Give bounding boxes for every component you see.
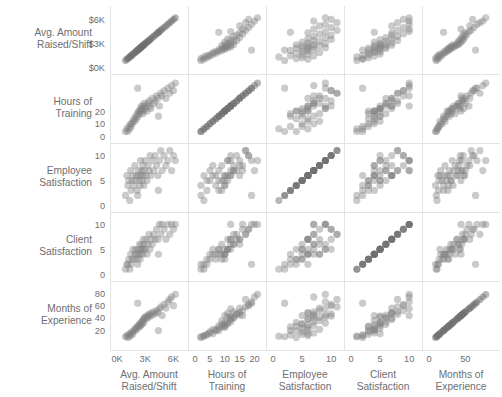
data-point	[155, 29, 162, 36]
data-point	[298, 251, 305, 258]
data-point	[293, 246, 300, 253]
splom-cell-experience-vs-client	[353, 291, 413, 341]
row-axis-label: Hours of	[53, 96, 92, 107]
data-point	[359, 300, 366, 307]
data-point	[168, 167, 175, 174]
data-point	[476, 147, 483, 154]
data-point	[440, 113, 447, 120]
data-point	[209, 162, 216, 169]
data-point	[155, 113, 162, 120]
data-point	[242, 296, 249, 303]
data-point	[333, 296, 340, 303]
data-point	[310, 167, 317, 174]
row-axis-label: Months of	[47, 303, 92, 314]
x-tick-label: 3K	[140, 354, 152, 364]
data-point	[164, 157, 171, 164]
data-point	[304, 172, 311, 179]
data-point	[310, 312, 317, 319]
data-point	[275, 333, 282, 340]
data-point	[134, 47, 141, 54]
data-point	[227, 221, 234, 228]
column-axis-label: Employee	[282, 369, 328, 380]
data-point	[281, 261, 288, 268]
data-point	[382, 157, 389, 164]
data-point	[215, 113, 222, 120]
x-tick-label: 50	[460, 354, 470, 364]
data-point	[239, 221, 246, 228]
data-point	[304, 105, 311, 112]
data-point	[388, 236, 395, 243]
data-point	[227, 28, 234, 35]
data-point	[293, 182, 300, 189]
data-point	[322, 241, 329, 248]
splom-cell-experience-vs-employee	[275, 291, 340, 341]
splom-cell-client-vs-training	[197, 221, 261, 273]
data-point	[371, 113, 378, 120]
splom-cell-employee-vs-training	[197, 147, 261, 204]
data-point	[293, 128, 300, 135]
data-point	[394, 296, 401, 303]
data-point	[472, 300, 479, 307]
data-point	[406, 102, 413, 109]
data-point	[310, 293, 317, 300]
data-point	[316, 226, 323, 233]
data-point	[251, 167, 258, 174]
data-point	[469, 226, 476, 233]
splom-cell-raised-vs-client	[353, 14, 413, 64]
data-point	[440, 251, 447, 258]
data-point	[322, 291, 329, 298]
data-point	[172, 221, 179, 228]
column-axis-label: Hours of	[208, 369, 247, 380]
data-point	[359, 85, 366, 92]
y-tick-label: $0K	[89, 63, 106, 73]
y-tick-label: 10	[95, 151, 105, 161]
data-point	[281, 46, 288, 53]
data-point	[406, 221, 413, 228]
splom-cell-training-vs-employee	[275, 79, 340, 135]
data-point	[275, 197, 282, 204]
column-axis-label: Avg. Amount	[120, 369, 178, 380]
data-point	[159, 312, 166, 319]
scatter-plot-matrix: $0K$3K$6KAvg. AmountRaised/Shift01020Hou…	[0, 0, 502, 397]
y-tick-label: 10	[95, 220, 105, 230]
data-point	[400, 162, 407, 169]
data-point	[440, 327, 447, 334]
data-point	[322, 79, 329, 86]
splom-cell-client-vs-raised	[122, 221, 179, 273]
x-tick-label: 6K	[168, 354, 180, 364]
data-point	[457, 167, 464, 174]
data-point	[371, 327, 378, 334]
splom-cell-employee-vs-client	[353, 147, 413, 204]
data-point	[388, 152, 395, 159]
data-point	[472, 261, 479, 268]
data-point	[479, 167, 486, 174]
column-axis-label: Client	[370, 369, 396, 380]
data-point	[322, 221, 329, 228]
y-tick-label: 0	[100, 270, 105, 280]
column-axis-label: Satisfaction	[357, 381, 410, 392]
data-point	[172, 14, 179, 21]
data-point	[394, 147, 401, 154]
data-point	[328, 87, 335, 94]
data-point	[155, 187, 162, 194]
data-point	[281, 192, 288, 199]
data-point	[482, 221, 489, 228]
data-point	[394, 231, 401, 238]
y-tick-label: 40	[95, 313, 105, 323]
data-point	[299, 177, 306, 184]
splom-canvas: $0K$3K$6KAvg. AmountRaised/Shift01020Hou…	[0, 0, 502, 397]
y-tick-label: 20	[95, 326, 105, 336]
data-point	[472, 192, 479, 199]
splom-cell-client-vs-experience	[432, 221, 489, 273]
splom-cell-raised-vs-raised	[122, 14, 179, 64]
data-point	[322, 21, 329, 28]
row-axis-label: Satisfaction	[39, 246, 92, 257]
data-point	[316, 110, 323, 117]
data-point	[388, 162, 395, 169]
data-point	[304, 261, 311, 268]
data-point	[472, 85, 479, 92]
data-point	[328, 310, 335, 317]
splom-cell-training-vs-client	[353, 79, 413, 135]
data-point	[359, 192, 366, 199]
data-point	[287, 29, 294, 36]
